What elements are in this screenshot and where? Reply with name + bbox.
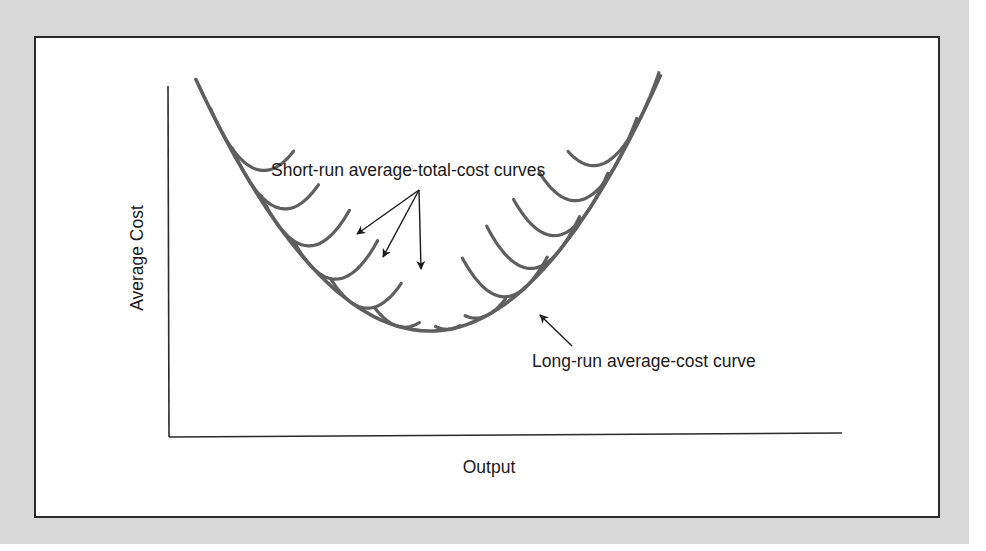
short-run-curve-13 (568, 73, 659, 166)
y-axis-label: Average Cost (127, 205, 147, 311)
short-run-annotation: Short-run average-total-cost curves (271, 160, 546, 180)
long-run-arrow (540, 315, 572, 346)
long-run-annotation: Long-run average-cost curve (532, 351, 756, 371)
short-run-curves (211, 73, 659, 330)
short-run-arrow-1 (357, 190, 419, 234)
cost-curves-diagram: Average Cost Output Short-run average-to… (0, 0, 986, 551)
short-run-arrow-3 (419, 190, 421, 269)
short-run-arrow-2 (383, 190, 419, 257)
x-axis (169, 433, 842, 437)
x-axis-label: Output (463, 457, 516, 477)
y-axis (168, 86, 169, 437)
short-run-curve-12 (539, 119, 637, 201)
